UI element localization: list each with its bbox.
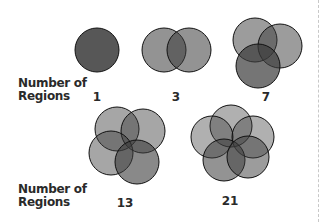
venn-1-circle	[75, 28, 119, 72]
venn-4-circles	[89, 107, 165, 184]
venn-2-circles	[142, 28, 211, 72]
venn-3-circles	[233, 18, 302, 88]
region-count-1: 1	[93, 90, 101, 104]
venn-5-circles	[191, 105, 274, 181]
region-count-2: 3	[172, 90, 180, 104]
label-line: Regions	[18, 196, 87, 209]
dashed-divider	[318, 0, 319, 222]
region-count-3: 7	[262, 90, 270, 104]
row1-label: Number of Regions	[18, 77, 87, 103]
region-count-5: 21	[222, 194, 239, 208]
region-count-4: 13	[117, 196, 134, 210]
label-line: Regions	[18, 90, 87, 103]
row2-label: Number of Regions	[18, 183, 87, 209]
